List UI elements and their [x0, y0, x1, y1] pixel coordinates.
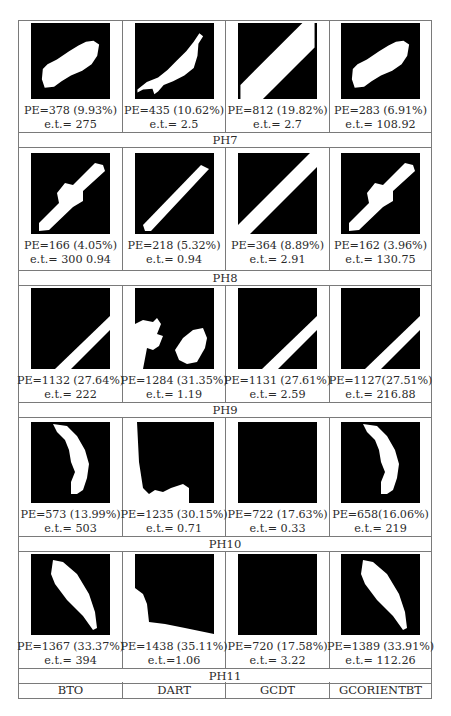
execution-time: e.t.= 2.91 — [249, 253, 305, 267]
segmentation-image — [135, 23, 214, 99]
column-header-dart: DART — [123, 682, 226, 698]
cell-bto-ph11: PE=1367 (33.37%) e.t.= 394 — [19, 552, 123, 668]
cell-gcorientbt-ph9: PE=1127(27.51%) e.t.= 216.88 — [330, 286, 431, 402]
cell-dart-ph10: PE=1235 (30.15%) e.t.= 0.71 — [123, 418, 226, 536]
group-label-ph9: PH9 — [19, 402, 431, 418]
cell-bto-ph8: PE=166 (4.05%) e.t.= 300 0.94 — [19, 148, 123, 270]
execution-time: e.t.= 2.7 — [253, 118, 302, 132]
pixel-error: PE=162 (3.96%) — [334, 239, 427, 253]
column-header-gcdt: GCDT — [226, 682, 330, 698]
pixel-error: PE=166 (4.05%) — [24, 239, 117, 253]
execution-time: e.t.= 219 — [354, 522, 407, 536]
pixel-error: PE=1389 (33.91%) — [327, 640, 434, 654]
pixel-error: PE=1367 (33.37%) — [17, 640, 124, 654]
execution-time: e.t.= 108.92 — [345, 118, 415, 132]
execution-time: e.t.= 275 — [44, 118, 97, 132]
column-header-row: BTO DART GCDT GCORIENTBT — [19, 682, 431, 698]
execution-time: e.t.= 2.59 — [249, 388, 305, 402]
segmentation-image — [31, 288, 110, 369]
pixel-error: PE=722 (17.63%) — [228, 508, 328, 522]
pixel-error: PE=1132 (27.64%) — [17, 374, 124, 388]
pixel-error: PE=1127(27.51%) — [329, 374, 432, 388]
segmentation-image — [238, 554, 317, 635]
segmentation-image — [341, 554, 420, 635]
group-label-ph7: PH7 — [19, 132, 431, 148]
image-row-ph11: PE=1367 (33.37%) e.t.= 394 PE=1438 (35.1… — [19, 552, 431, 668]
pixel-error: PE=658(16.06%) — [332, 508, 428, 522]
execution-time: e.t.= 2.5 — [150, 118, 199, 132]
cell-gcdt-ph10: PE=722 (17.63%) e.t.= 0.33 — [226, 418, 330, 536]
pixel-error: PE=812 (19.82%) — [228, 104, 328, 118]
execution-time: e.t.= 1.19 — [146, 388, 202, 402]
segmentation-image — [341, 422, 420, 503]
results-table: PE=378 (9.93%) e.t.= 275 PE=435 (10.62%)… — [18, 20, 432, 699]
cell-gcdt-ph7: PE=812 (19.82%) e.t.= 2.7 — [226, 21, 330, 132]
column-header-bto: BTO — [19, 682, 123, 698]
execution-time: e.t.= 130.75 — [345, 253, 415, 267]
segmentation-image — [135, 288, 214, 369]
group-label-ph8: PH8 — [19, 270, 431, 286]
segmentation-image — [31, 554, 110, 635]
execution-time: e.t.= 112.26 — [345, 654, 415, 668]
pixel-error: PE=283 (6.91%) — [334, 104, 427, 118]
execution-time: e.t.= 216.88 — [345, 388, 415, 402]
cell-gcorientbt-ph7: PE=283 (6.91%) e.t.= 108.92 — [330, 21, 431, 132]
pixel-error: PE=378 (9.93%) — [24, 104, 117, 118]
segmentation-image — [135, 554, 214, 635]
segmentation-image — [341, 23, 420, 99]
cell-dart-ph8: PE=218 (5.32%) e.t.= 0.94 — [123, 148, 226, 270]
segmentation-image — [31, 422, 110, 503]
cell-gcorientbt-ph8: PE=162 (3.96%) e.t.= 130.75 — [330, 148, 431, 270]
segmentation-image — [135, 153, 214, 234]
column-header-gcorientbt: GCORIENTBT — [330, 682, 431, 698]
cell-bto-ph7: PE=378 (9.93%) e.t.= 275 — [19, 21, 123, 132]
execution-time: e.t.= 300 0.94 — [30, 253, 111, 267]
execution-time: e.t.= 0.33 — [249, 522, 305, 536]
segmentation-image — [238, 153, 317, 234]
segmentation-image — [341, 153, 420, 234]
execution-time: e.t.= 222 — [44, 388, 97, 402]
segmentation-image — [238, 288, 317, 369]
cell-gcdt-ph8: PE=364 (8.89%) e.t.= 2.91 — [226, 148, 330, 270]
segmentation-image — [31, 153, 110, 234]
pixel-error: PE=1131 (27.61%) — [224, 374, 331, 388]
image-row-ph9: PE=1132 (27.64%) e.t.= 222 PE=1284 (31.3… — [19, 286, 431, 402]
execution-time: e.t.= 394 — [44, 654, 97, 668]
pixel-error: PE=435 (10.62%) — [124, 104, 224, 118]
pixel-error: PE=1284 (31.35%) — [121, 374, 228, 388]
cell-bto-ph9: PE=1132 (27.64%) e.t.= 222 — [19, 286, 123, 402]
pixel-error: PE=720 (17.58%) — [228, 640, 328, 654]
pixel-error: PE=573 (13.99%) — [21, 508, 121, 522]
segmentation-image — [135, 422, 214, 503]
segmentation-image — [238, 23, 317, 99]
execution-time: e.t.= 3.22 — [249, 654, 305, 668]
cell-gcdt-ph11: PE=720 (17.58%) e.t.= 3.22 — [226, 552, 330, 668]
group-label-ph10: PH10 — [19, 536, 431, 552]
segmentation-image — [341, 288, 420, 369]
pixel-error: PE=218 (5.32%) — [128, 239, 221, 253]
image-row-ph7: PE=378 (9.93%) e.t.= 275 PE=435 (10.62%)… — [19, 21, 431, 132]
execution-time: e.t.= 0.71 — [146, 522, 202, 536]
cell-bto-ph10: PE=573 (13.99%) e.t.= 503 — [19, 418, 123, 536]
cell-gcorientbt-ph11: PE=1389 (33.91%) e.t.= 112.26 — [330, 552, 431, 668]
execution-time: e.t.=1.06 — [148, 654, 201, 668]
cell-gcorientbt-ph10: PE=658(16.06%) e.t.= 219 — [330, 418, 431, 536]
cell-gcdt-ph9: PE=1131 (27.61%) e.t.= 2.59 — [226, 286, 330, 402]
image-row-ph8: PE=166 (4.05%) e.t.= 300 0.94 PE=218 (5.… — [19, 148, 431, 270]
image-row-ph10: PE=573 (13.99%) e.t.= 503 PE=1235 (30.15… — [19, 418, 431, 536]
execution-time: e.t.= 503 — [44, 522, 97, 536]
cell-dart-ph7: PE=435 (10.62%) e.t.= 2.5 — [123, 21, 226, 132]
pixel-error: PE=364 (8.89%) — [231, 239, 324, 253]
cell-dart-ph9: PE=1284 (31.35%) e.t.= 1.19 — [123, 286, 226, 402]
segmentation-image — [238, 422, 317, 503]
cell-dart-ph11: PE=1438 (35.11%) e.t.=1.06 — [123, 552, 226, 668]
segmentation-image — [31, 23, 110, 99]
execution-time: e.t.= 0.94 — [146, 253, 202, 267]
pixel-error: PE=1438 (35.11%) — [121, 640, 228, 654]
pixel-error: PE=1235 (30.15%) — [121, 508, 228, 522]
